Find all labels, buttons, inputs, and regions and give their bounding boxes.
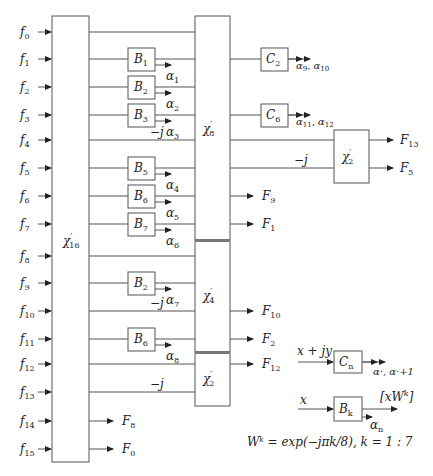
output-label-F1: F1 xyxy=(261,217,275,233)
output-label-F0: F0 xyxy=(121,442,135,458)
alpha-label: α1 xyxy=(166,69,179,85)
alpha-label: α2 xyxy=(166,97,179,113)
twiddle-label: −j xyxy=(150,377,164,391)
input-label-f10: f10 xyxy=(19,304,35,320)
input-label-f15: f15 xyxy=(19,442,35,458)
cn-input-label: x + jy xyxy=(297,344,332,358)
input-label-f9: f9 xyxy=(19,276,30,292)
output-label-F12: F12 xyxy=(261,357,281,373)
alpha-label: α3 xyxy=(166,125,179,141)
input-label-f11: f11 xyxy=(19,332,35,348)
output-label-F10: F10 xyxy=(261,304,281,320)
alpha-label: α5 xyxy=(166,206,179,222)
blocks xyxy=(52,16,369,462)
input-label-f1: f1 xyxy=(19,52,30,68)
bk-output-label: [xWk] xyxy=(380,389,414,404)
bk-input-label: x xyxy=(300,393,307,407)
twiddle-formula: Wᵏ = exp(−jπk/8), k = 1 : 7 xyxy=(247,435,413,449)
alpha-label: α7 xyxy=(166,293,179,309)
output-label-F13: F13 xyxy=(399,133,419,149)
input-label-f3: f3 xyxy=(19,108,30,124)
cn-output-label: α·, α·+1 xyxy=(373,366,414,377)
input-label-f2: f2 xyxy=(19,80,30,96)
output-label-F2: F2 xyxy=(261,332,275,348)
output-label-F9: F9 xyxy=(261,189,275,205)
input-label-f7: f7 xyxy=(19,217,30,233)
input-label-f0: f0 xyxy=(19,25,30,41)
twiddle-label: −j xyxy=(294,153,308,167)
input-label-f6: f6 xyxy=(19,189,30,205)
alpha-label: α6 xyxy=(166,234,179,250)
input-label-f4: f4 xyxy=(19,133,30,149)
fft-flow-diagram: χ′16χ′8χ′4χ′2f0f1f2f3f4f5f6f7f8f9f10f11f… xyxy=(0,0,433,476)
diagram-canvas: χ′16χ′8χ′4χ′2f0f1f2f3f4f5f6f7f8f9f10f11f… xyxy=(0,0,433,476)
twiddle-label: −j xyxy=(150,296,164,310)
input-label-f5: f5 xyxy=(19,161,30,177)
alpha-label: α4 xyxy=(166,178,179,194)
input-label-f14: f14 xyxy=(19,414,35,430)
output-label-F5: F5 xyxy=(399,161,413,177)
input-label-f12: f12 xyxy=(19,357,35,373)
output-label-F8: F8 xyxy=(121,414,135,430)
twiddle-label: −j xyxy=(150,125,164,139)
c-output-label: α9, α10 xyxy=(296,60,329,73)
input-label-f13: f13 xyxy=(19,385,35,401)
alpha-n-label: αn xyxy=(370,418,383,434)
c-output-label: α11, α12 xyxy=(296,116,334,129)
chi8-block xyxy=(195,16,230,240)
alpha-label: α8 xyxy=(166,349,179,365)
input-label-f8: f8 xyxy=(19,249,30,265)
